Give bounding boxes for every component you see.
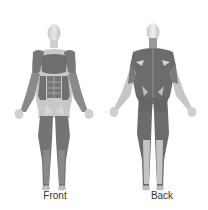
head [48, 24, 61, 42]
back-body-figure[interactable]: Back [104, 0, 208, 210]
front-body-diagram [0, 0, 104, 210]
front-label: Front [3, 190, 107, 201]
right-glute[interactable] [153, 96, 168, 112]
left-glute[interactable] [138, 96, 153, 112]
chest-muscle[interactable] [41, 54, 67, 74]
front-body-figure[interactable]: Front [0, 0, 104, 210]
back-label: Back [110, 190, 208, 201]
back-body-diagram [104, 0, 208, 210]
